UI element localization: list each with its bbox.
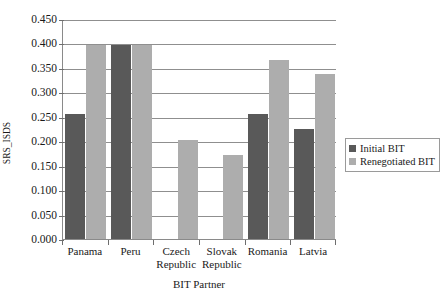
bar-renegotiated (269, 60, 289, 239)
y-axis-tick-label: 0.200 (31, 136, 57, 148)
legend-item-renegotiated-bit: Renegotiated BIT (349, 155, 435, 168)
legend-item-initial-bit: Initial BIT (349, 142, 435, 155)
bar-group (109, 20, 155, 239)
y-axis-title-text: SRS_ISDS (2, 122, 12, 164)
y-axis-tick-label: 0.100 (31, 185, 57, 197)
x-axis-tick-label: Slovak Republic (199, 245, 245, 271)
bar-group (200, 20, 246, 239)
x-axis-tick-label: Peru (108, 245, 154, 258)
plot-area (62, 20, 336, 240)
y-axis-tick-label: 0.450 (31, 14, 57, 26)
legend-label-initial-bit: Initial BIT (360, 143, 405, 154)
bar-group (246, 20, 292, 239)
bar-renegotiated (178, 140, 198, 239)
x-axis-tick-label: Romania (245, 245, 291, 258)
y-axis-tick-label: 0.350 (31, 63, 57, 75)
x-axis-title: BIT Partner (62, 278, 336, 290)
bar-renegotiated (315, 74, 335, 239)
y-axis-tick-label: 0.050 (31, 210, 57, 222)
y-axis-title: SRS_ISDS (0, 108, 14, 178)
y-axis-tick-labels: 0.0000.0500.1000.1500.2000.2500.3000.350… (14, 20, 60, 240)
x-axis-tick-label: Latvia (290, 245, 336, 258)
bar-group (154, 20, 200, 239)
bar-initial (111, 45, 131, 239)
bar-initial (248, 114, 268, 239)
x-axis-tick-label: Panama (62, 245, 108, 258)
bar-group (63, 20, 109, 239)
bar-group (291, 20, 337, 239)
bar-renegotiated (223, 155, 243, 239)
y-axis-tick-label: 0.400 (31, 39, 57, 51)
y-axis-tick-label: 0.000 (31, 234, 57, 246)
legend-swatch-icon-renegotiated-bit (349, 158, 356, 165)
chart-legend: Initial BIT Renegotiated BIT (345, 138, 440, 172)
bar-chart: SRS_ISDS 0.0000.0500.1000.1500.2000.2500… (0, 0, 441, 298)
bars-layer (63, 20, 336, 239)
x-axis-tick-label: Czech Republic (153, 245, 199, 271)
bar-initial (294, 129, 314, 239)
legend-swatch-icon-initial-bit (349, 145, 356, 152)
legend-label-renegotiated-bit: Renegotiated BIT (360, 156, 435, 167)
bar-initial (65, 114, 85, 239)
y-axis-tick-label: 0.150 (31, 161, 57, 173)
x-axis-tick-labels: PanamaPeruCzech RepublicSlovak RepublicR… (62, 245, 336, 279)
bar-renegotiated (132, 45, 152, 239)
y-axis-tick-label: 0.300 (31, 88, 57, 100)
y-axis-tick-label: 0.250 (31, 112, 57, 124)
bar-renegotiated (86, 45, 106, 239)
